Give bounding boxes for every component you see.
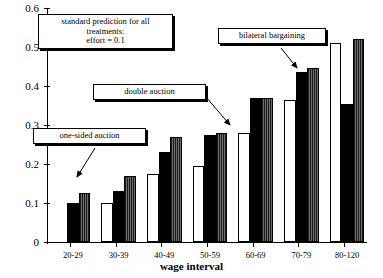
leader-one-sided (77, 148, 95, 177)
x-axis-title: wage interval (0, 260, 383, 272)
bar-chart: 0.6 0.5 0.4 0.3 0.2 0.1 0 20-2930-3940-4… (0, 0, 383, 278)
leader-bilateral (281, 48, 297, 68)
leader-double-auction (206, 97, 230, 125)
annotation-leader-lines (0, 0, 383, 278)
